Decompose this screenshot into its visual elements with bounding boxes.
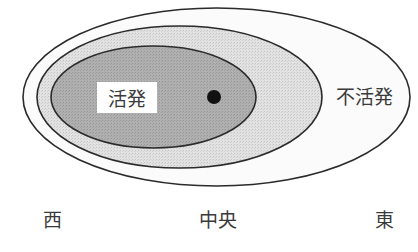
center-axis-label: 中央	[199, 209, 237, 231]
west-axis-label: 西	[43, 209, 62, 231]
active-label: 活発	[108, 84, 146, 111]
center-dot-marker	[207, 90, 221, 104]
active-label-box: 活発	[97, 82, 157, 113]
inactive-label: 不活発	[336, 86, 393, 108]
east-axis-label: 東	[375, 209, 394, 231]
